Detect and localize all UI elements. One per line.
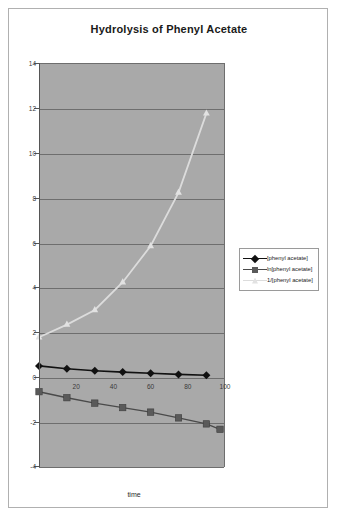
- legend-item-inverse[interactable]: 1/[phenyl acetate]: [243, 275, 315, 286]
- x-tick-label-100: 100: [220, 383, 231, 390]
- legend-key-square: [243, 264, 267, 275]
- x-tick-label-60: 60: [147, 383, 154, 390]
- y-axis-labels: 14 12 10 8 6 4 2 0 -2 -4: [9, 63, 36, 467]
- series-inverse-markers: [36, 109, 210, 339]
- y-tick-label-8: 8: [14, 194, 36, 201]
- series-ln-markers: [36, 389, 223, 433]
- x-tick-label-80: 80: [184, 383, 191, 390]
- square-marker-icon: [252, 267, 258, 273]
- y-tick-label-neg2: -2: [14, 419, 36, 426]
- chart-frame: Hydrolysis of Phenyl Acetate: [8, 8, 328, 508]
- y-tick-label-14: 14: [14, 60, 36, 67]
- chart-legend: [phenyl acetate] ln[phenyl acetate] 1/[p…: [239, 248, 319, 291]
- y-tick-label-neg4: -4: [14, 463, 36, 470]
- series-concentration-markers: [35, 362, 210, 379]
- legend-label-ln: ln[phenyl acetate]: [267, 264, 312, 275]
- legend-label-concentration: [phenyl acetate]: [267, 253, 308, 264]
- y-tick-label-10: 10: [14, 149, 36, 156]
- y-tick-label-2: 2: [14, 329, 36, 336]
- y-tick-label-0: 0: [14, 374, 36, 381]
- x-axis-title: time: [9, 491, 259, 498]
- y-tick-label-12: 12: [14, 104, 36, 111]
- y-axis-line: [39, 63, 40, 467]
- y-tick-label-6: 6: [14, 239, 36, 246]
- legend-key-diamond: [243, 253, 267, 264]
- legend-label-inverse: 1/[phenyl acetate]: [267, 275, 313, 286]
- page-title: Hydrolysis of Phenyl Acetate: [9, 23, 329, 35]
- y-tick-label-4: 4: [14, 284, 36, 291]
- plot-area: [39, 63, 225, 467]
- legend-item-concentration[interactable]: [phenyl acetate]: [243, 253, 315, 264]
- diamond-marker-icon: [251, 254, 259, 262]
- legend-key-triangle: [243, 275, 267, 286]
- legend-item-ln[interactable]: ln[phenyl acetate]: [243, 264, 315, 275]
- x-tick-label-40: 40: [110, 383, 117, 390]
- x-tick-label-20: 20: [73, 383, 80, 390]
- data-series-layer: [39, 64, 225, 468]
- series-inverse-line: [39, 113, 206, 337]
